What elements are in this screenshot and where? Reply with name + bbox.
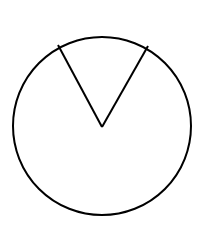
sector-radius-right: [102, 46, 148, 127]
circle-sector-diagram: [0, 0, 200, 228]
sector-radius-left: [58, 45, 102, 127]
